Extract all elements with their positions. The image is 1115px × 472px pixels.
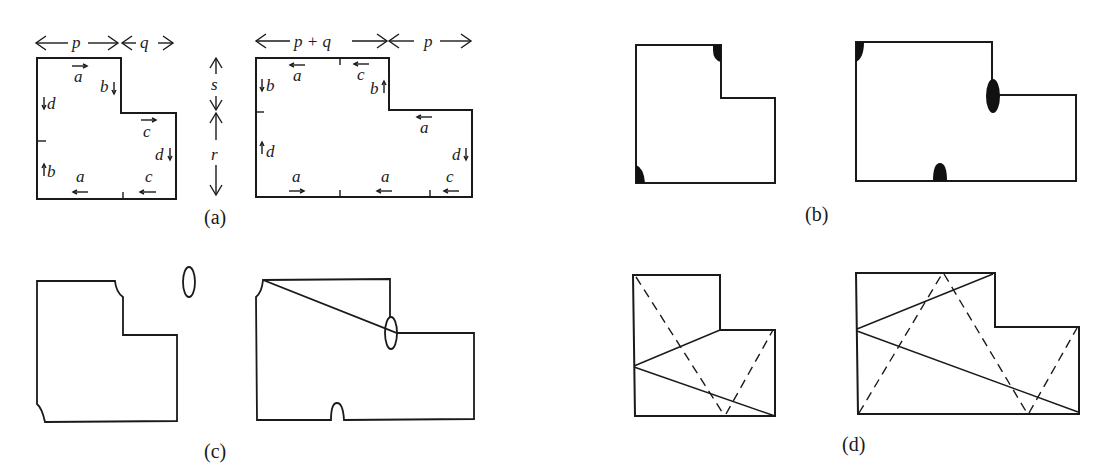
- edge-label-d: d: [47, 94, 56, 113]
- l-shape-right: a c b b a d d a a c: [256, 58, 472, 197]
- geodesic-dashed: [636, 277, 724, 415]
- l-shape-right-cut: [256, 279, 474, 420]
- panel-b: (b): [636, 42, 1076, 226]
- geodesic-dashed: [1029, 328, 1077, 413]
- l-shape-left-geodesics: [633, 275, 775, 416]
- label-q: q: [140, 33, 149, 52]
- edge-label-a: a: [74, 67, 83, 86]
- geodesic-dashed: [944, 274, 1027, 413]
- geodesic-solid: [634, 367, 775, 416]
- geodesic-dashed: [859, 274, 942, 413]
- caption-b: (b): [805, 203, 828, 226]
- label-s: s: [211, 75, 218, 94]
- edge-label-d: d: [155, 145, 164, 164]
- caption-c: (c): [204, 440, 226, 463]
- l-shape-left-with-cuts: [636, 45, 775, 183]
- edge-label-c: c: [357, 65, 365, 84]
- edge-label-c: c: [143, 122, 151, 141]
- panel-d: (d): [633, 273, 1079, 456]
- geodesic-solid: [634, 330, 720, 366]
- dimension-p-arrow: p: [36, 33, 118, 52]
- edge-label-c: c: [145, 167, 153, 186]
- edge-label-b: b: [100, 77, 109, 96]
- cut-region: [636, 165, 645, 183]
- geodesic-solid: [857, 331, 1078, 412]
- edge-label-a: a: [381, 167, 390, 186]
- dimension-r-arrow: r: [210, 113, 222, 195]
- torus-hole-ellipse: [183, 267, 195, 297]
- panel-a: p q s r: [36, 32, 472, 229]
- cut-region: [856, 42, 864, 62]
- edge-label-b: b: [370, 79, 379, 98]
- figure-canvas: p q s r: [0, 0, 1115, 472]
- dimension-q-arrow: q: [122, 33, 173, 52]
- edge-label-a: a: [76, 167, 85, 186]
- dimension-p-plus-q-arrow: p + q: [256, 32, 387, 51]
- edge-label-a: a: [292, 167, 301, 186]
- panel-c: (c): [37, 267, 474, 463]
- edge-label-b: b: [47, 162, 56, 181]
- label-p-plus-q: p + q: [293, 32, 331, 51]
- cut-region: [713, 45, 721, 62]
- l-shape-right-geodesics: [856, 273, 1079, 414]
- caption-a: (a): [204, 206, 226, 229]
- l-shape-left-cut: [37, 281, 177, 422]
- cut-region: [986, 79, 1000, 113]
- dimension-s-arrow: s: [210, 58, 222, 110]
- caption-d: (d): [842, 433, 865, 456]
- label-p: p: [423, 32, 433, 51]
- label-p: p: [71, 33, 81, 52]
- cut-region: [933, 163, 947, 181]
- edge-label-a: a: [293, 66, 302, 85]
- geodesic-solid: [857, 274, 993, 329]
- edge-label-d: d: [266, 142, 275, 161]
- edge-label-d: d: [452, 145, 461, 164]
- dimension-p-arrow-right: p: [389, 32, 471, 51]
- edge-label-c: c: [446, 167, 454, 186]
- edge-label-a: a: [420, 118, 429, 137]
- edge-label-b: b: [266, 76, 275, 95]
- l-shape-left: a b d c d b a c: [37, 58, 176, 199]
- l-shape-right-with-cuts: [856, 42, 1076, 181]
- label-r: r: [211, 145, 218, 164]
